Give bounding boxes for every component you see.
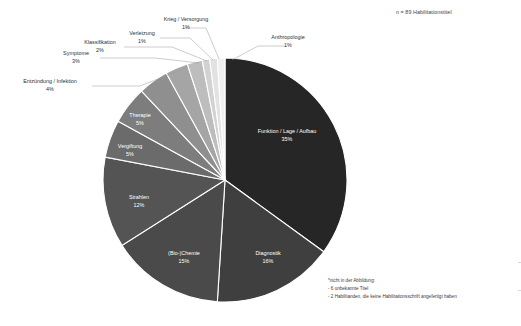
slice-label-verletzung: Verletzung 1%: [129, 30, 154, 45]
slice-label-entzuendung-pct: 4%: [23, 86, 77, 94]
leader-verletzung: [160, 38, 213, 60]
leader-klassifikation: [124, 47, 207, 61]
slice-label-therapie: Therapie 5%: [129, 112, 150, 127]
footnote-title: *nicht in der Abbildung:: [328, 277, 457, 285]
slice-label-verletzung-pct: 1%: [129, 38, 154, 46]
slice-label-diagnostik-pct: 16%: [255, 258, 280, 266]
slice-label-diagnostik: Diagnostik 16%: [255, 250, 280, 265]
slice-label-verletzung-name: Verletzung: [129, 30, 154, 36]
slice-label-biochemie-name: (Bio-)Chemie: [168, 250, 200, 256]
slice-label-entzuendung: Entzündung / Infektion 4%: [23, 78, 77, 93]
slice-label-biochemie-pct: 15%: [168, 258, 200, 266]
slice-label-klassifikation-pct: 2%: [84, 47, 115, 55]
pie-slices: [103, 58, 347, 302]
slice-label-diagnostik-name: Diagnostik: [255, 250, 280, 256]
slice-label-therapie-pct: 5%: [129, 120, 150, 128]
slice-label-klassifikation: Klassifikation 2%: [84, 39, 115, 54]
slice-label-anthropologie: Anthropologie 1%: [271, 34, 304, 49]
slice-label-funktion-name: Funktion / Lage / Aufbau: [258, 128, 316, 134]
slice-label-krieg-name: Krieg / Versorgung: [164, 16, 209, 22]
footnote-line-2: - 2 Habilitanden, die keine Habilitation…: [328, 293, 457, 301]
slice-label-therapie-name: Therapie: [129, 112, 150, 118]
slice-label-anthropologie-pct: 1%: [271, 42, 304, 50]
slice-label-strahlen-pct: 12%: [129, 202, 149, 210]
slice-label-vergiftung: Vergiftung 5%: [118, 143, 142, 158]
slice-label-strahlen: Strahlen 12%: [129, 194, 149, 209]
chart-page: n = 89 Habilitationstitel Funktion / Lag…: [0, 0, 521, 326]
slice-label-funktion: Funktion / Lage / Aufbau 35%: [258, 128, 316, 143]
slice-label-vergiftung-name: Vergiftung: [118, 143, 142, 149]
slice-label-entzuendung-name: Entzündung / Infektion: [23, 78, 77, 84]
slice-label-symptome-pct: 3%: [63, 58, 89, 66]
slice-label-anthropologie-name: Anthropologie: [271, 34, 304, 40]
slice-label-klassifikation-name: Klassifikation: [84, 39, 115, 45]
footnote-block: *nicht in der Abbildung: - 6 unbekannte …: [328, 277, 457, 302]
slice-label-funktion-pct: 35%: [258, 136, 316, 144]
slice-label-krieg: Krieg / Versorgung 1%: [164, 16, 209, 31]
slice-label-krieg-pct: 1%: [164, 24, 209, 32]
slice-label-biochemie: (Bio-)Chemie 15%: [168, 250, 200, 265]
slice-label-vergiftung-pct: 5%: [118, 151, 142, 159]
footnote-line-1: - 6 unbekannte Titel: [328, 285, 457, 293]
slice-label-strahlen-name: Strahlen: [129, 194, 149, 200]
leader-symptome: [100, 58, 199, 63]
